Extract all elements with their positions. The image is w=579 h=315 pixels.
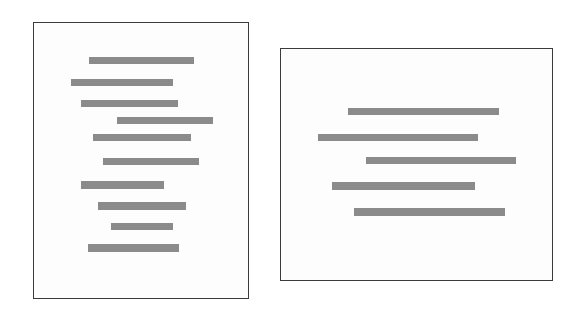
bar-right-panel-3 (366, 157, 516, 164)
bar-left-panel-8 (98, 202, 186, 210)
right-panel[interactable] (280, 48, 553, 281)
left-panel-content (34, 23, 248, 298)
bar-right-panel-2 (318, 134, 478, 141)
bar-right-panel-1 (348, 108, 499, 115)
bar-left-panel-9 (111, 223, 173, 230)
diagram-canvas (0, 0, 579, 315)
bar-left-panel-7 (81, 181, 164, 189)
bar-right-panel-5 (354, 208, 505, 216)
bar-left-panel-3 (81, 100, 178, 107)
bar-right-panel-4 (332, 182, 475, 190)
bar-left-panel-2 (71, 79, 173, 86)
right-panel-content (281, 49, 552, 280)
bar-left-panel-6 (103, 158, 199, 165)
bar-left-panel-4 (117, 117, 213, 124)
bar-left-panel-5 (93, 134, 191, 141)
bar-left-panel-10 (88, 244, 179, 252)
bar-left-panel-1 (89, 57, 194, 64)
left-panel[interactable] (33, 22, 249, 299)
